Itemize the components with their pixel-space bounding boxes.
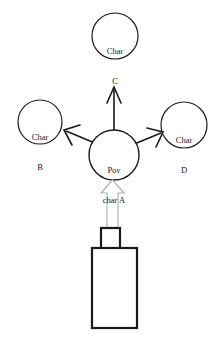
diagram-canvas: Char C Char B Char D Pov char A — [0, 0, 224, 348]
node-pov-char-a-circle — [89, 130, 139, 180]
camera-body — [92, 248, 137, 328]
camera-lens — [101, 228, 120, 249]
camera-view-arrow — [101, 180, 124, 233]
node-char-b-circle — [18, 100, 62, 144]
diagram-svg — [0, 0, 224, 348]
node-char-d-circle — [161, 102, 207, 148]
node-char-c-circle — [92, 13, 138, 59]
